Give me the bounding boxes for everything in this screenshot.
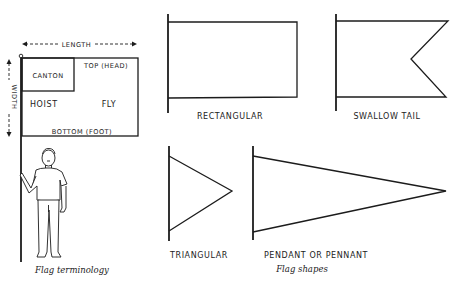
rectangular-label: RECTANGULAR (197, 112, 263, 121)
bottom-foot-label: BOTTOM (FOOT) (52, 128, 112, 136)
pennant-flag: PENDANT OR PENNANT (253, 146, 446, 260)
length-label: LENGTH (62, 41, 92, 49)
flag-diagram: LENGTH WIDTH CANTON TOP (HEAD) HOIST FLY… (0, 0, 457, 285)
hoist-label: HOIST (30, 100, 58, 109)
width-dimension-arrow: WIDTH (7, 59, 18, 137)
fly-label: FLY (102, 100, 117, 109)
flag-shapes-caption: Flag shapes (275, 264, 328, 274)
triangular-label: TRIANGULAR (169, 251, 228, 260)
triangular-flag: TRIANGULAR (169, 146, 232, 260)
canton-label: CANTON (32, 72, 63, 80)
pennant-label: PENDANT OR PENNANT (264, 251, 368, 260)
arrow-down-icon (7, 132, 12, 137)
flag-terminology-figure: LENGTH WIDTH CANTON TOP (HEAD) HOIST FLY… (7, 41, 139, 276)
pole-finial (19, 54, 23, 58)
swallow-tail-label: SWALLOW TAIL (353, 112, 420, 121)
swallow-tail-flag: SWALLOW TAIL (336, 14, 448, 121)
arrow-left-icon (22, 42, 27, 47)
length-dimension-arrow: LENGTH (22, 41, 137, 49)
flag-terminology-caption: Flag terminology (34, 265, 109, 275)
width-label: WIDTH (10, 84, 18, 109)
top-head-label: TOP (HEAD) (83, 62, 128, 70)
arrow-right-icon (132, 42, 137, 47)
arrow-up-icon (7, 59, 12, 64)
rectangular-flag: RECTANGULAR (168, 14, 297, 121)
person-holding-flag-illustration (20, 148, 67, 257)
flag-shapes-figure: RECTANGULAR SWALLOW TAIL TRIANGULAR PEND… (168, 14, 448, 274)
